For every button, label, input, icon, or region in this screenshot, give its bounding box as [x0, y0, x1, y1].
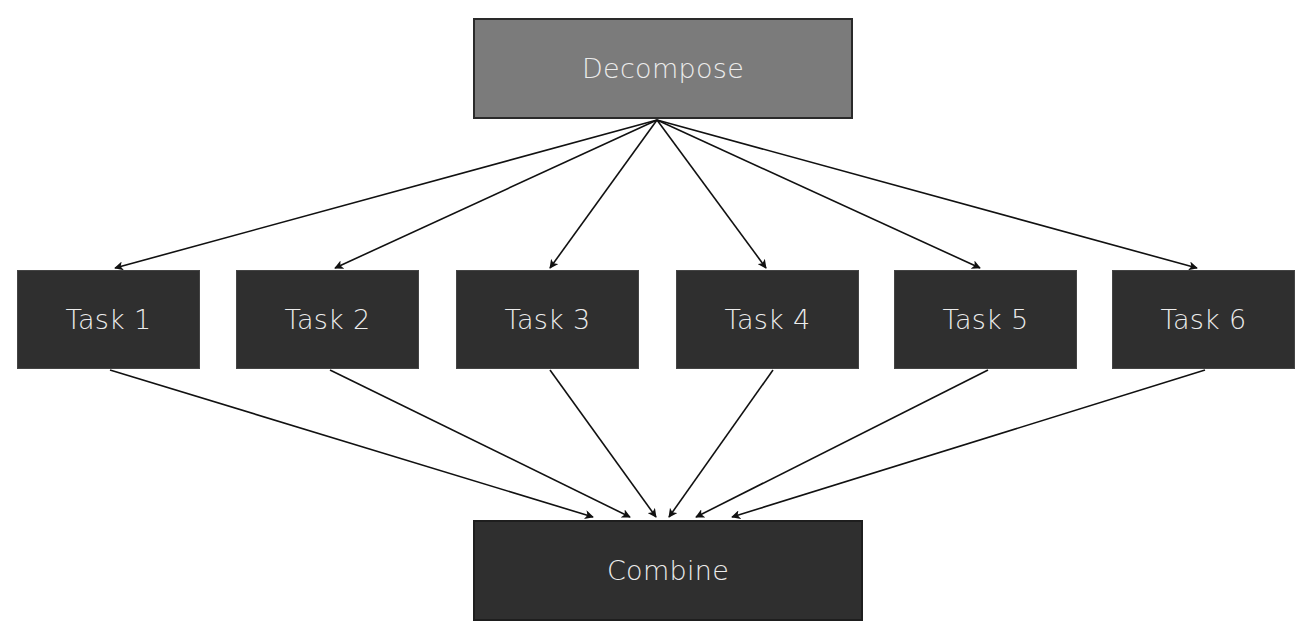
task-6-label: Task 6 [1161, 304, 1247, 335]
arrow-task-1-to-combine [110, 370, 593, 517]
arrow-decompose-to-task-5 [657, 120, 980, 268]
arrow-task-4-to-combine [669, 370, 773, 517]
task-2-label: Task 2 [285, 304, 371, 335]
arrow-task-3-to-combine [550, 370, 656, 517]
task-1-label: Task 1 [66, 304, 152, 335]
combine-node: Combine [473, 520, 863, 621]
task-2-node: Task 2 [236, 270, 419, 369]
task-3-label: Task 3 [505, 304, 591, 335]
arrow-task-6-to-combine [732, 370, 1205, 517]
task-4-label: Task 4 [725, 304, 811, 335]
arrow-decompose-to-task-1 [115, 120, 657, 268]
task-1-node: Task 1 [17, 270, 200, 369]
arrow-decompose-to-task-4 [657, 120, 766, 268]
arrow-decompose-to-task-6 [657, 120, 1197, 268]
task-3-node: Task 3 [456, 270, 639, 369]
task-4-node: Task 4 [676, 270, 859, 369]
task-5-node: Task 5 [894, 270, 1077, 369]
task-5-label: Task 5 [943, 304, 1029, 335]
decompose-label: Decompose [582, 53, 744, 84]
arrow-task-2-to-combine [330, 370, 630, 517]
combine-label: Combine [607, 555, 729, 586]
decompose-node: Decompose [473, 18, 853, 119]
arrow-decompose-to-task-3 [550, 120, 657, 268]
arrow-task-5-to-combine [696, 370, 988, 517]
task-6-node: Task 6 [1112, 270, 1295, 369]
